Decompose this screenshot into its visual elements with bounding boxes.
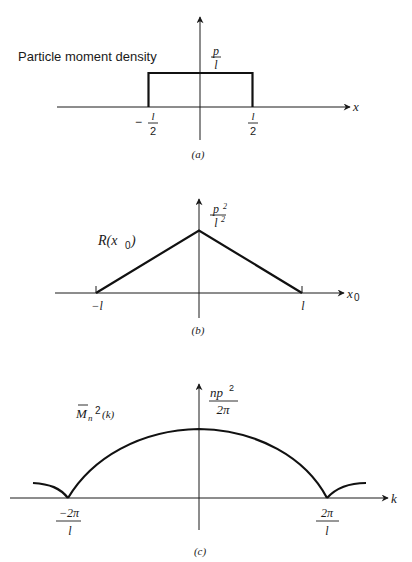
figure-canvas: Particle moment density x p l − l 2 l 2 … [0, 0, 412, 562]
svg-text:(k): (k) [102, 408, 115, 421]
svg-text:p: p [212, 44, 219, 58]
svg-text:p: p [212, 202, 219, 216]
svg-text:R(x: R(x [97, 233, 118, 249]
svg-text:2: 2 [95, 405, 101, 416]
panel-a: Particle moment density x p l − l 2 l 2 … [18, 17, 359, 161]
panel-a-tick-neg: − l 2 [135, 110, 158, 137]
svg-text:): ) [130, 233, 136, 249]
svg-text:2: 2 [221, 215, 225, 224]
panel-a-title: Particle moment density [18, 49, 157, 64]
panel-b-y-label: p 2 l 2 [210, 202, 227, 230]
svg-text:−2π: −2π [59, 506, 80, 520]
svg-text:2: 2 [223, 202, 227, 211]
panel-c-main-lobe-curve [68, 429, 327, 498]
panel-b: x 0 R(x 0 ) p 2 l 2 −l l (b) [55, 199, 360, 337]
panel-c-tick-pos: 2π l [316, 506, 339, 538]
panel-b-caption: (b) [192, 324, 205, 337]
panel-a-y-label: p l [211, 44, 221, 72]
svg-text:M: M [75, 406, 88, 421]
panel-b-function-label: R(x 0 ) [97, 233, 136, 251]
svg-text:x: x [346, 286, 353, 301]
panel-c-right-side-lobe-curve [327, 483, 366, 498]
panel-c-left-side-lobe-curve [33, 483, 68, 498]
svg-text:np: np [210, 385, 224, 400]
svg-text:0: 0 [354, 292, 360, 303]
panel-c: k M n 2 (k) np 2 2π −2π l 2π l [10, 383, 397, 558]
panel-a-tick-pos: l 2 [248, 110, 258, 137]
svg-text:l: l [214, 216, 218, 230]
panel-c-tick-neg: −2π l [56, 506, 81, 538]
panel-a-caption: (a) [192, 148, 205, 161]
panel-b-tick-neg: −l [91, 299, 103, 313]
panel-c-function-label: M n 2 (k) [75, 405, 115, 423]
svg-text:2π: 2π [321, 506, 334, 520]
svg-text:−: − [135, 115, 142, 129]
svg-text:2π: 2π [216, 402, 230, 417]
panel-b-x-label: x 0 [346, 286, 360, 303]
svg-text:2: 2 [229, 383, 234, 393]
svg-text:l: l [214, 58, 218, 72]
panel-c-y-label: np 2 2π [209, 383, 238, 417]
panel-c-x-label: k [391, 491, 397, 506]
panel-a-x-label: x [352, 99, 359, 114]
panel-c-caption: (c) [194, 545, 207, 558]
svg-text:n: n [88, 413, 93, 423]
svg-text:l: l [325, 524, 329, 538]
svg-text:2: 2 [250, 125, 256, 137]
svg-text:l: l [251, 110, 254, 122]
svg-text:2: 2 [150, 125, 156, 137]
panel-b-tick-pos: l [301, 299, 305, 313]
svg-text:l: l [68, 524, 72, 538]
svg-text:l: l [151, 110, 154, 122]
